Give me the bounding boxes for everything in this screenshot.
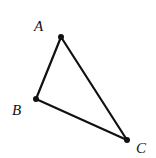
edge-ab <box>36 37 61 99</box>
triangle-diagram: A B C <box>0 0 156 158</box>
vertex-a-label: A <box>33 18 44 34</box>
vertex-b-dot <box>33 96 39 102</box>
vertex-c-label: C <box>136 140 147 156</box>
vertex-c-dot <box>124 137 130 143</box>
vertex-a-dot <box>58 34 64 40</box>
triangle-vertices <box>33 34 130 143</box>
triangle-edges <box>36 37 127 140</box>
vertex-b-label: B <box>12 102 21 118</box>
